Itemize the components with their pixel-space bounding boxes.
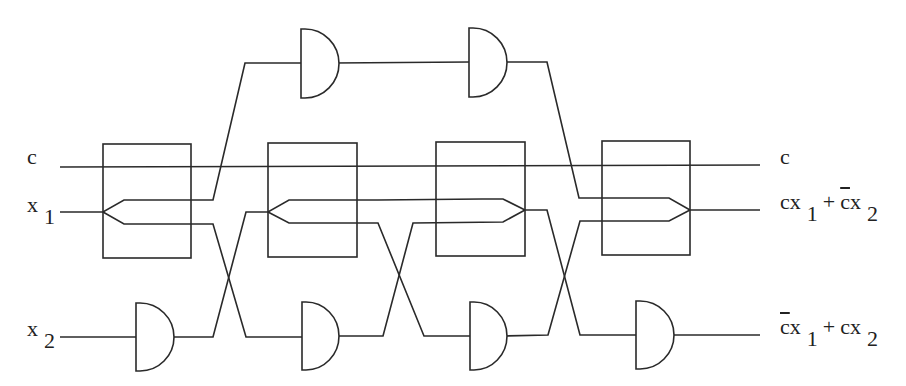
input-label-c: c bbox=[27, 146, 37, 168]
out2-cbar: c bbox=[780, 314, 790, 339]
out1-term2: x bbox=[850, 189, 861, 214]
and-gate-bottom-3 bbox=[470, 302, 507, 370]
input-label-x1: x1 bbox=[27, 194, 55, 228]
output-c-text: c bbox=[780, 144, 790, 169]
output-label-2: cx1+cx2 bbox=[780, 316, 878, 350]
box1-lower-branch bbox=[103, 212, 302, 337]
and-gate-top-2 bbox=[469, 28, 507, 97]
out2-sub2: 2 bbox=[867, 326, 878, 351]
input-x2-var: x bbox=[27, 316, 38, 341]
input-c-text: c bbox=[27, 144, 37, 169]
out1-term1: cx bbox=[780, 189, 801, 214]
out2-plus: + bbox=[823, 314, 835, 339]
x1-input-wire bbox=[60, 63, 301, 212]
out1-sub2: 2 bbox=[867, 201, 878, 226]
and-gate-top-1 bbox=[301, 29, 339, 98]
control-line-c bbox=[60, 165, 760, 167]
input-x2-sub: 2 bbox=[44, 328, 55, 353]
out1-cbar: c bbox=[840, 189, 850, 214]
input-x1-sub: 1 bbox=[44, 204, 55, 229]
input-x1-var: x bbox=[27, 192, 38, 217]
top-gate-link bbox=[334, 62, 469, 63]
out1-sub1: 1 bbox=[807, 201, 818, 226]
output-label-c: c bbox=[780, 146, 790, 168]
out2-term2: cx bbox=[840, 314, 861, 339]
circuit-diagram bbox=[0, 0, 906, 386]
top-gate2-output bbox=[502, 62, 690, 210]
box3-merge-output bbox=[525, 210, 636, 335]
input-label-x2: x2 bbox=[27, 318, 55, 352]
and-gate-bottom-1 bbox=[136, 303, 174, 371]
and-gate-bottom-4 bbox=[636, 301, 674, 369]
out2-term1: x bbox=[790, 314, 801, 339]
out1-plus: + bbox=[823, 189, 835, 214]
box2-lower-branch bbox=[268, 212, 470, 336]
and-gate-bottom-2 bbox=[302, 302, 339, 370]
out2-sub1: 1 bbox=[807, 326, 818, 351]
box-1 bbox=[103, 144, 191, 258]
output-label-1: cx1+cx2 bbox=[780, 191, 878, 225]
